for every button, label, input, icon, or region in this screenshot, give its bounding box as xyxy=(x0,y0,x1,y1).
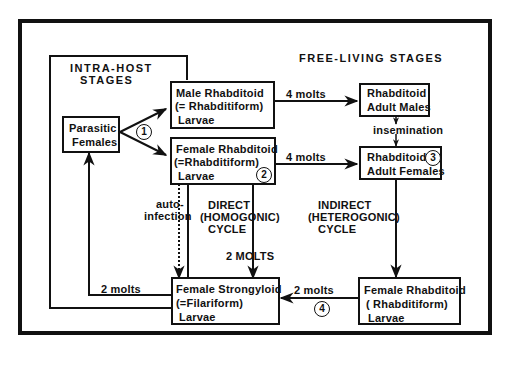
node-rhabditoid-adult-males: Rhabditoid Adult Males xyxy=(359,83,430,117)
node-label: Female Strongyloid xyxy=(176,283,282,295)
node-label: ( Rhabditiform) xyxy=(366,298,448,310)
node-label: Adult Females xyxy=(367,165,445,177)
edge-label-female-4-molts: 4 molts xyxy=(286,150,326,164)
node-male-rhabditoid-larvae: Male Rhabditoid (= Rhabditiform) Larvae xyxy=(170,81,275,129)
step-badge-4: 4 xyxy=(314,301,330,317)
edge-label-direct-line3: CYCLE xyxy=(208,222,246,236)
edge-label-2-molts-to-strongyloid: 2 molts xyxy=(294,283,334,297)
node-label: Male Rhabditoid xyxy=(176,87,264,99)
node-label: Parasitic xyxy=(69,122,117,134)
node-label: (=Filariform) xyxy=(176,297,243,309)
node-label: Adult Males xyxy=(367,101,431,113)
node-label: Larvae xyxy=(368,312,405,324)
node-label: Female Rhabditoid xyxy=(176,143,278,155)
node-label: Larvae xyxy=(178,114,215,126)
edge-label-2-molts-direct: 2 MOLTS xyxy=(226,249,274,263)
node-female-strongyloid-larvae: Female Strongyloid (=Filariform) Larvae xyxy=(171,277,280,325)
strongyloides-life-cycle-diagram: FREE-LIVING STAGES INTRA-HOST STAGES Par… xyxy=(0,0,508,370)
edge-label-insemination: insemination xyxy=(373,123,443,137)
intra-host-title-line2: STAGES xyxy=(80,73,133,87)
node-label: Rhabditoid xyxy=(367,151,426,163)
node-label: Rhabditoid xyxy=(367,87,426,99)
edge-label-indirect-line3: CYCLE xyxy=(318,222,356,236)
node-parasitic-females: Parasitic Females xyxy=(62,116,120,153)
node-female-rhabditoid-free-larvae: Female Rhabditoid ( Rhabditiform) Larvae xyxy=(358,277,461,325)
edge-label-male-4-molts: 4 molts xyxy=(286,87,326,101)
node-label: Females xyxy=(72,136,117,148)
edge-label-2-molts-to-parasitic: 2 molts xyxy=(101,282,141,296)
node-label: Female Rhabditoid xyxy=(364,284,466,296)
node-label: (=Rhabditiform) xyxy=(174,156,259,168)
step-badge-2: 2 xyxy=(256,167,272,183)
node-label: Larvae xyxy=(178,170,215,182)
edge-label-auto-line2: infection xyxy=(144,209,192,223)
node-label: Larvae xyxy=(179,311,216,323)
node-label: (= Rhabditiform) xyxy=(175,100,263,112)
step-badge-1: 1 xyxy=(136,124,152,140)
free-living-stages-title: FREE-LIVING STAGES xyxy=(299,51,443,65)
step-badge-3: 3 xyxy=(425,150,441,166)
